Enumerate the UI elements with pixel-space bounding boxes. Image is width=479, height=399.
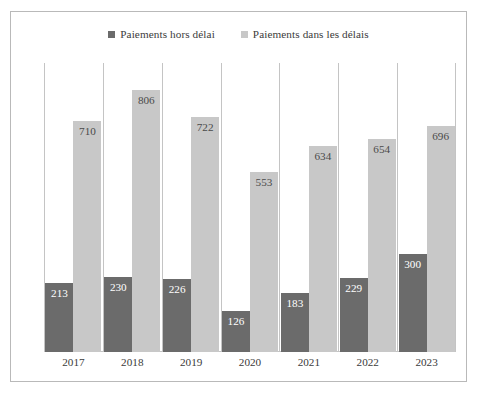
legend-label-series-2: Paiements dans les délais [253, 28, 369, 40]
x-axis-tick-labels: 2017201820192020202120222023 [44, 356, 456, 368]
bar-value-label: 300 [404, 259, 421, 270]
bar-value-label: 126 [228, 316, 245, 327]
bar-value-label: 722 [197, 122, 214, 133]
bar-value-label: 806 [138, 95, 155, 106]
x-tick-label-2020: 2020 [221, 356, 280, 368]
bar-2021-series-2[interactable]: 634 [309, 146, 337, 352]
bar-group: 230806 [103, 63, 162, 352]
bar-2018-series-2[interactable]: 806 [132, 90, 160, 352]
bar-2019-series-2[interactable]: 722 [191, 117, 219, 352]
bar-group: 229654 [338, 63, 397, 352]
bar-value-label: 229 [345, 283, 362, 294]
x-tick-label-2021: 2021 [279, 356, 338, 368]
bar-2017-series-2[interactable]: 710 [73, 121, 101, 352]
bar-group: 300696 [397, 63, 456, 352]
bar-group: 126553 [221, 63, 280, 352]
legend-swatch-icon-series-2 [241, 31, 248, 38]
bar-2017-series-1[interactable]: 213 [45, 283, 73, 352]
bar-group: 183634 [279, 63, 338, 352]
bar-value-label: 226 [169, 284, 186, 295]
bar-value-label: 710 [79, 126, 96, 137]
x-tick-label-2019: 2019 [162, 356, 221, 368]
legend-entry-paiements-hors-delai[interactable]: Paiements hors délai [108, 28, 215, 40]
bar-2021-series-1[interactable]: 183 [281, 293, 309, 352]
bar-value-label: 183 [286, 298, 303, 309]
chart-legend: Paiements hors délai Paiements dans les … [11, 28, 466, 40]
legend-entry-paiements-dans-les-delais[interactable]: Paiements dans les délais [241, 28, 369, 40]
x-tick-label-2022: 2022 [338, 356, 397, 368]
bar-2022-series-1[interactable]: 229 [340, 278, 368, 352]
bar-2018-series-1[interactable]: 230 [104, 277, 132, 352]
legend-swatch-icon-series-1 [108, 31, 115, 38]
bar-value-label: 654 [373, 144, 390, 155]
x-tick-label-2023: 2023 [397, 356, 456, 368]
chart-frame: Paiements hors délai Paiements dans les … [10, 11, 467, 382]
bar-2019-series-1[interactable]: 226 [163, 279, 191, 352]
bar-2020-series-1[interactable]: 126 [222, 311, 250, 352]
bar-group: 226722 [162, 63, 221, 352]
bar-2022-series-2[interactable]: 654 [368, 139, 396, 352]
bar-2023-series-2[interactable]: 696 [427, 126, 455, 352]
bar-2023-series-1[interactable]: 300 [399, 254, 427, 352]
bar-group: 213710 [44, 63, 103, 352]
bar-value-label: 634 [314, 151, 331, 162]
bar-value-label: 696 [432, 131, 449, 142]
bar-value-label: 213 [51, 288, 68, 299]
bar-value-label: 230 [110, 282, 127, 293]
x-tick-label-2018: 2018 [103, 356, 162, 368]
bar-value-label: 553 [256, 177, 273, 188]
bar-2020-series-2[interactable]: 553 [250, 172, 278, 352]
legend-label-series-1: Paiements hors délai [120, 28, 215, 40]
x-tick-label-2017: 2017 [44, 356, 103, 368]
plot-area: 2137102308062267221265531836342296543006… [44, 63, 456, 352]
bar-groups: 2137102308062267221265531836342296543006… [44, 63, 456, 352]
